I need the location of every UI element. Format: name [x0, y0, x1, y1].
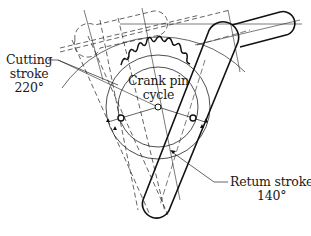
- crank-pin-right: [190, 115, 196, 121]
- rocker-arm: [232, 12, 295, 47]
- cutting-stroke-line2: stroke: [6, 67, 52, 81]
- return-stroke-label: Retum stroke 140°: [230, 175, 311, 203]
- cutting-stroke-angle: 220°: [6, 81, 52, 95]
- crank-pin-line1: Crank pin: [128, 74, 189, 88]
- cutting-stroke-label: Cutting stroke 220°: [6, 53, 52, 95]
- crank-pin-line2: cycle: [128, 88, 189, 102]
- return-stroke-line1: Retum stroke: [230, 175, 311, 189]
- crank-pin-left: [118, 115, 124, 121]
- quick-return-mechanism-diagram: Cutting stroke 220° Crank pin cycle Retu…: [0, 0, 311, 236]
- cutting-stroke-line1: Cutting: [6, 53, 52, 67]
- return-stroke-angle: 140°: [230, 189, 311, 203]
- crank-center: [155, 104, 161, 110]
- crank-pin-cycle-label: Crank pin cycle: [128, 74, 189, 102]
